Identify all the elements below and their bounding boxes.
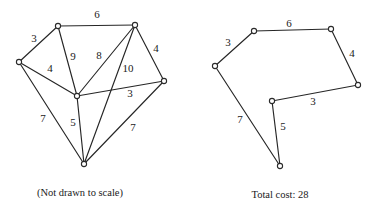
graph-edge bbox=[19, 26, 58, 62]
edge-weight-label: 4 bbox=[47, 63, 53, 74]
left-graph-canvas bbox=[0, 0, 190, 185]
edge-weight-label: 6 bbox=[94, 9, 100, 20]
graph-node bbox=[328, 26, 333, 31]
edge-weight-label: 3 bbox=[127, 88, 133, 99]
right-graph-panel: 634375 Total cost: 28 bbox=[185, 0, 374, 210]
graph-node bbox=[161, 78, 166, 83]
graph-edge bbox=[77, 25, 135, 96]
edge-weight-label: 3 bbox=[31, 33, 37, 44]
graph-node bbox=[16, 59, 21, 64]
left-graph-panel: 634984103757 (Not drawn to scale) bbox=[0, 0, 190, 210]
edge-weight-label: 4 bbox=[349, 48, 355, 59]
edge-weight-label: 7 bbox=[130, 122, 136, 133]
edge-weight-label: 3 bbox=[225, 37, 231, 48]
edge-weight-label: 6 bbox=[286, 18, 292, 29]
graph-edge bbox=[135, 25, 164, 81]
graph-node bbox=[269, 98, 274, 103]
right-panel-caption: Total cost: 28 bbox=[251, 190, 308, 201]
edge-weight-label: 8 bbox=[96, 50, 102, 61]
edge-weight-label: 4 bbox=[153, 43, 159, 54]
left-panel-caption: (Not drawn to scale) bbox=[37, 188, 123, 199]
graph-node bbox=[355, 82, 360, 87]
edge-weight-label: 9 bbox=[70, 51, 76, 62]
graph-node bbox=[55, 23, 60, 28]
edge-weight-label: 7 bbox=[40, 113, 46, 124]
right-graph-canvas bbox=[185, 0, 374, 185]
edge-weight-label: 7 bbox=[237, 114, 243, 125]
edge-weight-label: 10 bbox=[123, 63, 134, 74]
graph-node bbox=[251, 28, 256, 33]
graph-edge bbox=[215, 66, 280, 166]
edge-weight-label: 5 bbox=[70, 117, 76, 128]
graph-node bbox=[81, 161, 86, 166]
graph-node bbox=[132, 22, 137, 27]
graph-node bbox=[277, 163, 282, 168]
graph-edge bbox=[254, 29, 331, 31]
figure-root: 634984103757 (Not drawn to scale) 634375… bbox=[0, 0, 374, 210]
graph-edge bbox=[58, 25, 135, 26]
graph-node bbox=[74, 93, 79, 98]
graph-node bbox=[212, 63, 217, 68]
graph-edge bbox=[215, 31, 254, 66]
graph-edge bbox=[84, 81, 164, 164]
edge-weight-label: 3 bbox=[310, 96, 316, 107]
edge-weight-label: 5 bbox=[280, 121, 286, 132]
graph-edge bbox=[19, 62, 84, 164]
